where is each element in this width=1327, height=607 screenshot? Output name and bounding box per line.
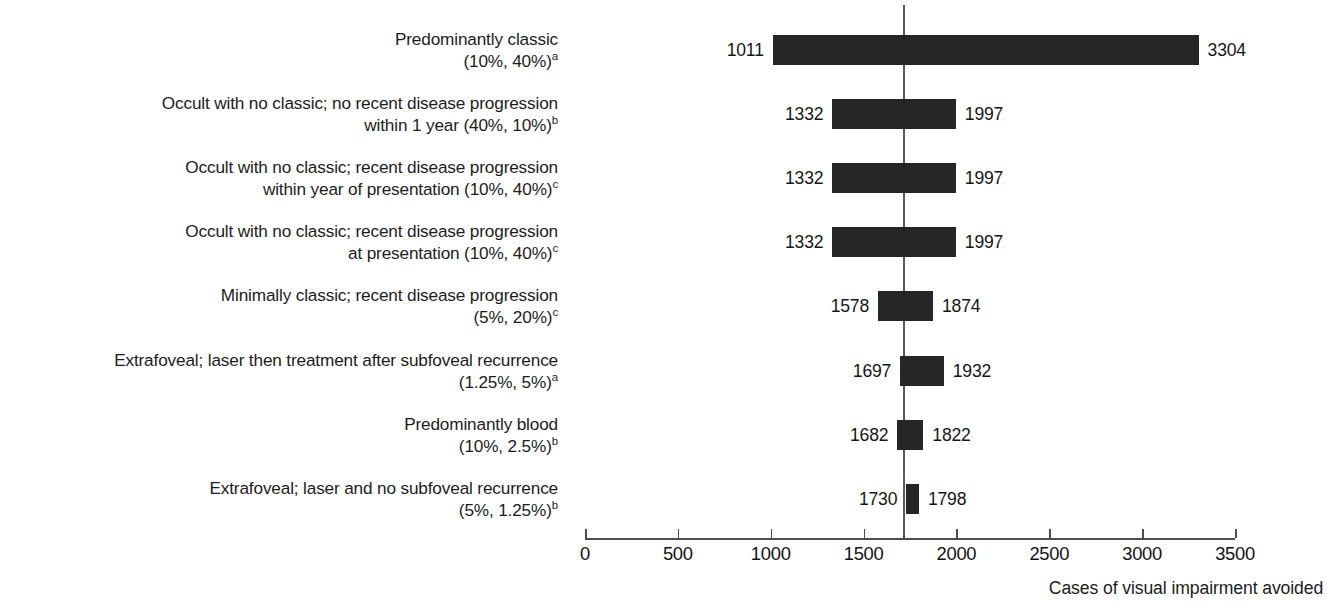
x-axis-tick [585,529,587,538]
baseline-reference-line [903,5,905,538]
range-bar [773,35,1199,65]
bar-high-value-label: 1997 [965,99,1003,129]
range-bar [832,163,955,193]
x-axis-line [585,538,1235,540]
x-axis-tick [1142,529,1144,538]
x-axis-tick-label: 1000 [751,543,791,565]
bar-high-value-label: 1932 [953,356,991,386]
range-bar [897,420,923,450]
x-axis-tick-label: 2000 [937,543,977,565]
bar-high-value-label: 3304 [1208,35,1246,65]
x-axis-tick-label: 0 [580,543,590,565]
bar-low-value-label: 1332 [702,99,823,129]
bar-low-value-label: 1697 [770,356,891,386]
bar-low-value-label: 1332 [702,163,823,193]
x-axis-tick [1235,529,1237,538]
range-bar [906,484,919,514]
bar-low-value-label: 1332 [702,227,823,257]
x-axis-title: Cases of visual impairment avoided [0,578,1327,599]
x-axis-tick [678,529,680,538]
range-bar [832,99,955,129]
x-axis-tick [864,529,866,538]
range-bar [900,356,944,386]
x-axis-tick [771,529,773,538]
bar-high-value-label: 1822 [932,420,970,450]
bar-high-value-label: 1874 [942,291,980,321]
range-bar [878,291,933,321]
range-bar [832,227,955,257]
bar-high-value-label: 1997 [965,227,1003,257]
x-axis-tick-label: 2500 [1029,543,1069,565]
bar-high-value-label: 1798 [928,484,966,514]
bar-high-value-label: 1997 [965,163,1003,193]
x-axis-tick-label: 1500 [844,543,884,565]
x-axis-tick-label: 3500 [1215,543,1255,565]
x-axis-tick [956,529,958,538]
bar-low-value-label: 1730 [776,484,897,514]
x-axis-tick [1049,529,1051,538]
x-axis-tick-label: 3000 [1122,543,1162,565]
bar-low-value-label: 1011 [643,35,764,65]
bar-low-value-label: 1682 [767,420,888,450]
x-axis-tick-label: 500 [663,543,693,565]
bar-low-value-label: 1578 [748,291,869,321]
